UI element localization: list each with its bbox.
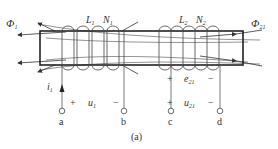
- terminal-b-label: b: [121, 116, 126, 127]
- u21-label: u21: [184, 97, 195, 109]
- l1-label: L1: [85, 14, 95, 26]
- current-arrow-icon: [60, 84, 65, 92]
- phi1-label: Φ1: [6, 17, 17, 30]
- n1-label: N1: [102, 14, 113, 26]
- terminal-c-label: c: [168, 116, 173, 127]
- phi21-arrows: [200, 30, 262, 66]
- terminal-a[interactable]: [59, 108, 65, 114]
- e21-minus: −: [208, 73, 214, 84]
- terminal-c[interactable]: [168, 108, 174, 114]
- i1-label: i1: [47, 81, 53, 93]
- u1-minus: −: [113, 97, 119, 108]
- coil-2: [159, 26, 219, 70]
- l2-label: L2: [178, 14, 188, 26]
- phi21-label: Φ21: [251, 17, 265, 30]
- terminal-b[interactable]: [121, 108, 127, 114]
- u1-label: u1: [88, 97, 96, 109]
- coupled-coils-diagram: Φ1 Φ21 L1 N1 L2 N2 i1 + u1 − + e21 − + u…: [0, 0, 278, 149]
- e21-label: e21: [184, 73, 194, 85]
- u21-plus: +: [167, 97, 173, 108]
- terminals: [59, 108, 223, 114]
- u1-plus: +: [70, 97, 76, 108]
- figure-caption: (a): [131, 131, 142, 143]
- e21-plus: +: [167, 73, 173, 84]
- coil-1: [62, 26, 124, 70]
- u21-minus: −: [208, 97, 214, 108]
- n2-label: N2: [195, 14, 206, 26]
- terminal-d[interactable]: [217, 108, 223, 114]
- terminal-d-label: d: [217, 116, 222, 127]
- terminal-a-label: a: [59, 116, 64, 127]
- leads: [62, 65, 220, 108]
